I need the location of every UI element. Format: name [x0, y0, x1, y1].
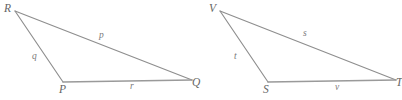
triangle-pqr-edges — [15, 11, 192, 82]
side-label-s: s — [303, 29, 307, 39]
geometry-figure: R P Q p q r V S T s t v — [0, 0, 402, 100]
vertex-label-v: V — [209, 3, 216, 15]
side-label-q: q — [32, 52, 37, 62]
vertex-label-t: T — [396, 77, 402, 89]
edge-pq — [63, 80, 192, 82]
vertex-label-q: Q — [192, 77, 200, 89]
triangle-stv-edges — [220, 11, 396, 82]
vertex-label-r: R — [4, 3, 11, 15]
edge-rq — [15, 11, 192, 80]
edge-vs — [220, 11, 268, 82]
side-label-r: r — [130, 82, 134, 92]
vertex-label-p: P — [59, 84, 66, 96]
vertex-label-s: S — [263, 84, 269, 96]
edge-vt — [220, 11, 396, 80]
side-label-p: p — [99, 31, 104, 41]
edge-st — [268, 80, 396, 82]
edge-rp — [15, 11, 63, 82]
side-label-v: v — [335, 83, 339, 93]
side-label-t: t — [234, 52, 237, 62]
